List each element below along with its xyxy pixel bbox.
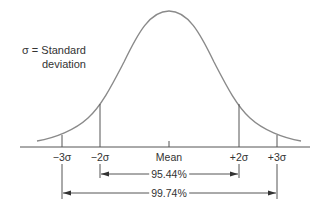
- range-95-right-arrowhead-icon: [230, 172, 238, 177]
- label-minus3-sigma: −3σ: [53, 151, 71, 163]
- range-95-label: 95.44%: [149, 168, 189, 180]
- label-plus2-sigma: +2σ: [230, 151, 248, 163]
- bell-curve: [37, 11, 301, 141]
- label-plus3-sigma: +3σ: [268, 151, 286, 163]
- range-99-right-arrowhead-icon: [268, 191, 276, 196]
- normal-distribution-diagram: [0, 0, 326, 212]
- legend-line-1: σ = Standard: [18, 43, 86, 57]
- legend-line-2: deviation: [18, 57, 86, 71]
- sigma-legend: σ = Standard deviation: [18, 43, 86, 71]
- range-95-left-arrowhead-icon: [101, 172, 109, 177]
- label-mean: Mean: [156, 151, 182, 163]
- label-minus2-sigma: −2σ: [91, 151, 109, 163]
- range-99-label: 99.74%: [149, 187, 189, 199]
- range-99-left-arrowhead-icon: [63, 191, 71, 196]
